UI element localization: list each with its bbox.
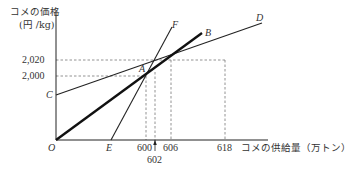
point-label-C: C [46, 90, 53, 100]
y-axis-title: コメの価格 [10, 7, 60, 17]
line-CD [56, 23, 262, 95]
x-tick-618: 618 [217, 143, 232, 153]
point-label-D: D [256, 13, 263, 23]
point-label-F: F [172, 20, 178, 30]
x-tick-602: 602 [147, 155, 162, 165]
line-OB [56, 33, 202, 140]
line-EF [111, 27, 172, 140]
point-label-A: A [139, 64, 145, 74]
point-label-B: B [205, 28, 211, 38]
point-label-E: E [106, 143, 112, 153]
y-axis-unit: (円 /kg) [19, 20, 54, 30]
point-label-O: O [48, 143, 55, 153]
x-tick-600: 600 [137, 143, 152, 153]
y-tick-2000: 2,000 [22, 71, 45, 81]
y-tick-2020: 2,020 [22, 55, 45, 65]
x-tick-606: 606 [163, 143, 178, 153]
x-axis-title: コメの供給量（万トン） [241, 143, 345, 153]
